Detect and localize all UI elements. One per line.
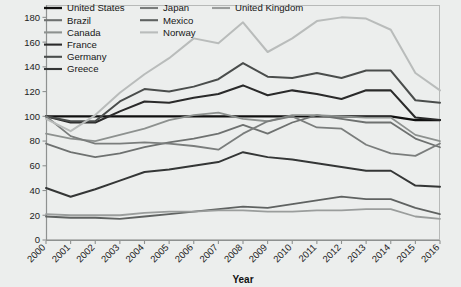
legend-label[interactable]: Norway [163,27,196,38]
y-tick-label: 40 [29,185,40,196]
y-tick-label: 80 [29,135,40,146]
y-tick-label: 120 [24,86,40,97]
legend-label[interactable]: United Kingdom [235,2,303,13]
legend-label[interactable]: Germany [67,51,107,62]
y-tick-label: 140 [24,61,40,72]
y-tick-label: 20 [29,210,40,221]
y-tick-label: 160 [24,37,40,48]
x-axis-title: Year [232,274,253,285]
y-tick-label: 100 [24,111,40,122]
line-chart: 020406080100120140160180 200020012002200… [0,0,461,287]
legend-label[interactable]: France [67,39,97,50]
chart-canvas: 020406080100120140160180 200020012002200… [0,0,461,287]
legend-label[interactable]: United States [67,2,125,13]
legend-label[interactable]: Greece [67,63,98,74]
legend-label[interactable]: Mexico [163,15,193,26]
legend-label[interactable]: Brazil [67,15,91,26]
y-tick-label: 180 [24,12,40,23]
y-tick-label: 60 [29,160,40,171]
legend-label[interactable]: Japan [163,2,189,13]
legend-label[interactable]: Canada [67,27,101,38]
